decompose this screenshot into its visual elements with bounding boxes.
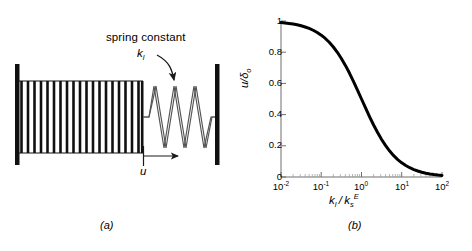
x-tick-exp: 0 <box>364 180 368 187</box>
x-tick-base: 10 <box>313 181 324 192</box>
x-tick-label-1e-1: 10-1 <box>301 180 341 192</box>
panel-a-diagram <box>15 55 220 166</box>
y-tick-label-06: 0.6 <box>252 77 282 88</box>
x-tick-label-1e0: 100 <box>341 180 381 192</box>
y-tick-label-1: 1 <box>252 15 282 26</box>
data-curve <box>281 23 442 176</box>
x-tick-base: 10 <box>354 181 365 192</box>
displacement-arrow <box>144 146 179 166</box>
y-ticks <box>281 21 286 177</box>
y-tick-label-04: 0.4 <box>252 108 282 119</box>
x-tick-label-1e-2: 10-2 <box>261 180 301 192</box>
x-tick-exp: -1 <box>323 180 329 187</box>
displacement-symbol: u <box>140 165 146 177</box>
spring-constant-annotation: spring constant <box>106 31 186 43</box>
figure-container: spring constant kl u 1 0.8 0.6 0.4 0.2 0… <box>0 0 472 251</box>
left-wall <box>15 64 20 165</box>
spring-constant-symbol: kl <box>137 47 144 62</box>
x-axis-label: kl / ksE <box>329 192 359 209</box>
x-tick-base: 10 <box>273 181 284 192</box>
x-tick-base: 10 <box>435 181 446 192</box>
x-tick-exp: 2 <box>445 180 449 187</box>
x-tick-exp: 1 <box>405 180 409 187</box>
x-tick-label-1e2: 102 <box>422 180 462 192</box>
x-tick-label-1e1: 101 <box>382 180 422 192</box>
panel-b-plot <box>281 21 442 177</box>
y-axis-label-base: u/δ <box>238 73 250 88</box>
panel-a-caption: (a) <box>100 219 113 231</box>
y-axis-label: u/δo <box>238 69 253 88</box>
x-axis-den-sup: E <box>354 192 359 201</box>
kl-subscript: l <box>143 53 145 62</box>
x-axis-den-sub: s <box>350 200 354 209</box>
y-axis-label-sub: o <box>244 69 253 73</box>
stiff-spring <box>19 81 143 153</box>
figure-svg <box>0 0 472 251</box>
annotation-pointer-arrow <box>157 55 174 80</box>
y-tick-label-08: 0.8 <box>252 46 282 57</box>
x-tick-base: 10 <box>395 181 406 192</box>
right-wall <box>215 64 220 165</box>
y-tick-label-02: 0.2 <box>252 139 282 150</box>
x-axis-num-sub: l <box>335 200 337 209</box>
soft-spring <box>143 86 215 148</box>
x-tick-exp: -2 <box>283 180 289 187</box>
panel-b-caption: (b) <box>348 219 361 231</box>
